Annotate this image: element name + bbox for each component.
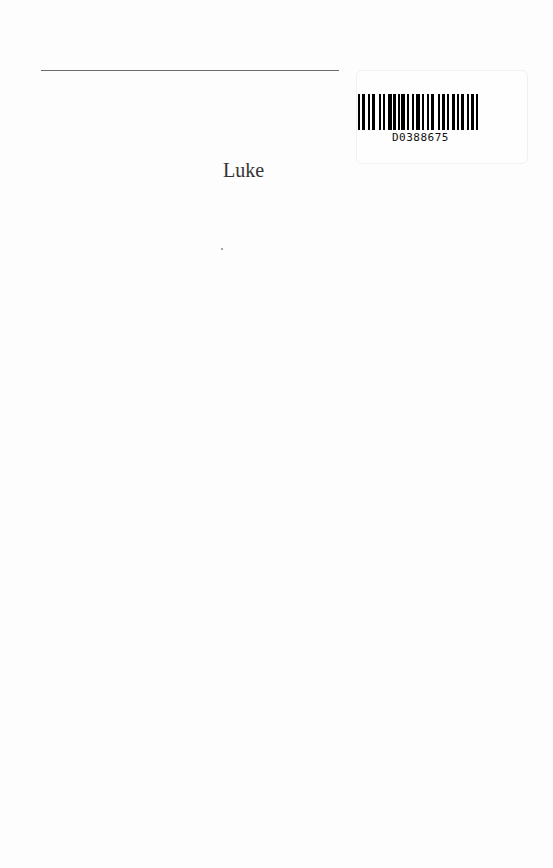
- page-title: Luke: [0, 159, 553, 182]
- decorative-dot: [221, 248, 223, 250]
- horizontal-rule: [41, 70, 339, 71]
- title-text: Luke: [223, 159, 264, 181]
- barcode-icon: [358, 94, 504, 130]
- barcode-number: D0388675: [392, 131, 449, 144]
